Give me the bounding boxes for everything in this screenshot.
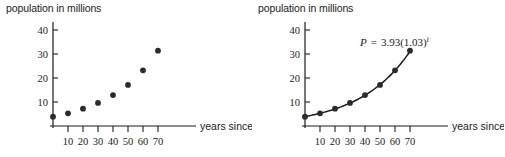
data-point (332, 106, 338, 112)
x-tick-label-40: 40 (108, 136, 119, 147)
x-axis-title-right: years since 1790 (452, 120, 504, 132)
x-tick-label-60: 60 (390, 136, 401, 147)
x-axis-ticks (320, 126, 410, 132)
data-point (317, 110, 323, 116)
data-points-right (302, 48, 413, 120)
data-point (392, 67, 398, 73)
equation-exponent: t (427, 35, 430, 44)
x-tick-label-40: 40 (360, 136, 371, 147)
chart-panel-right: population in millions 10 20 30 40 (252, 0, 504, 157)
data-point (155, 48, 161, 54)
y-tick-label-10: 10 (290, 97, 301, 108)
x-tick-label-70: 70 (153, 136, 164, 147)
y-tick-label-40: 40 (290, 25, 301, 36)
y-axis-ticks (53, 30, 58, 102)
y-tick-label-10: 10 (38, 97, 49, 108)
y-tick-label-20: 20 (290, 73, 301, 84)
x-tick-label-20: 20 (330, 136, 341, 147)
data-point (347, 100, 353, 106)
data-point (110, 92, 116, 98)
data-point (50, 114, 56, 120)
data-point (80, 106, 86, 112)
x-tick-label-70: 70 (405, 136, 416, 147)
plot-area-right: 10 20 30 40 10 20 30 40 50 60 70 years s… (252, 0, 504, 157)
chart-panel-left: population in millions 10 20 30 40 (0, 0, 252, 157)
y-tick-label-40: 40 (38, 25, 49, 36)
figure-container: population in millions 10 20 30 40 (0, 0, 505, 157)
equation-lhs: P (359, 36, 367, 48)
x-tick-label-50: 50 (375, 136, 386, 147)
data-point (125, 82, 131, 88)
data-point (362, 92, 368, 98)
equation-equals: = (371, 36, 377, 48)
data-point (407, 48, 413, 54)
y-tick-label-20: 20 (38, 73, 49, 84)
data-point (377, 82, 383, 88)
data-point (140, 67, 146, 73)
x-tick-label-50: 50 (123, 136, 134, 147)
data-point (65, 110, 71, 116)
data-point (302, 114, 308, 120)
data-point (95, 100, 101, 106)
x-tick-label-20: 20 (78, 136, 89, 147)
equation-coefficient: 3.93 (381, 36, 401, 48)
x-axis-ticks (68, 126, 158, 132)
data-points-left (50, 48, 161, 120)
equation-base: (1.03) (400, 36, 427, 49)
equation-annotation: P=3.93(1.03)t (359, 35, 430, 49)
x-tick-label-10: 10 (63, 136, 74, 147)
x-axis-title-left: years since 1790 (200, 120, 252, 132)
plot-area-left: 10 20 30 40 10 20 30 40 50 60 70 years s… (0, 0, 252, 157)
x-tick-label-60: 60 (138, 136, 149, 147)
x-tick-label-10: 10 (315, 136, 326, 147)
y-tick-label-30: 30 (38, 49, 49, 60)
y-tick-label-30: 30 (290, 49, 301, 60)
x-tick-label-30: 30 (93, 136, 104, 147)
y-axis-ticks (305, 30, 310, 102)
x-tick-label-30: 30 (345, 136, 356, 147)
fit-curve (305, 51, 410, 116)
